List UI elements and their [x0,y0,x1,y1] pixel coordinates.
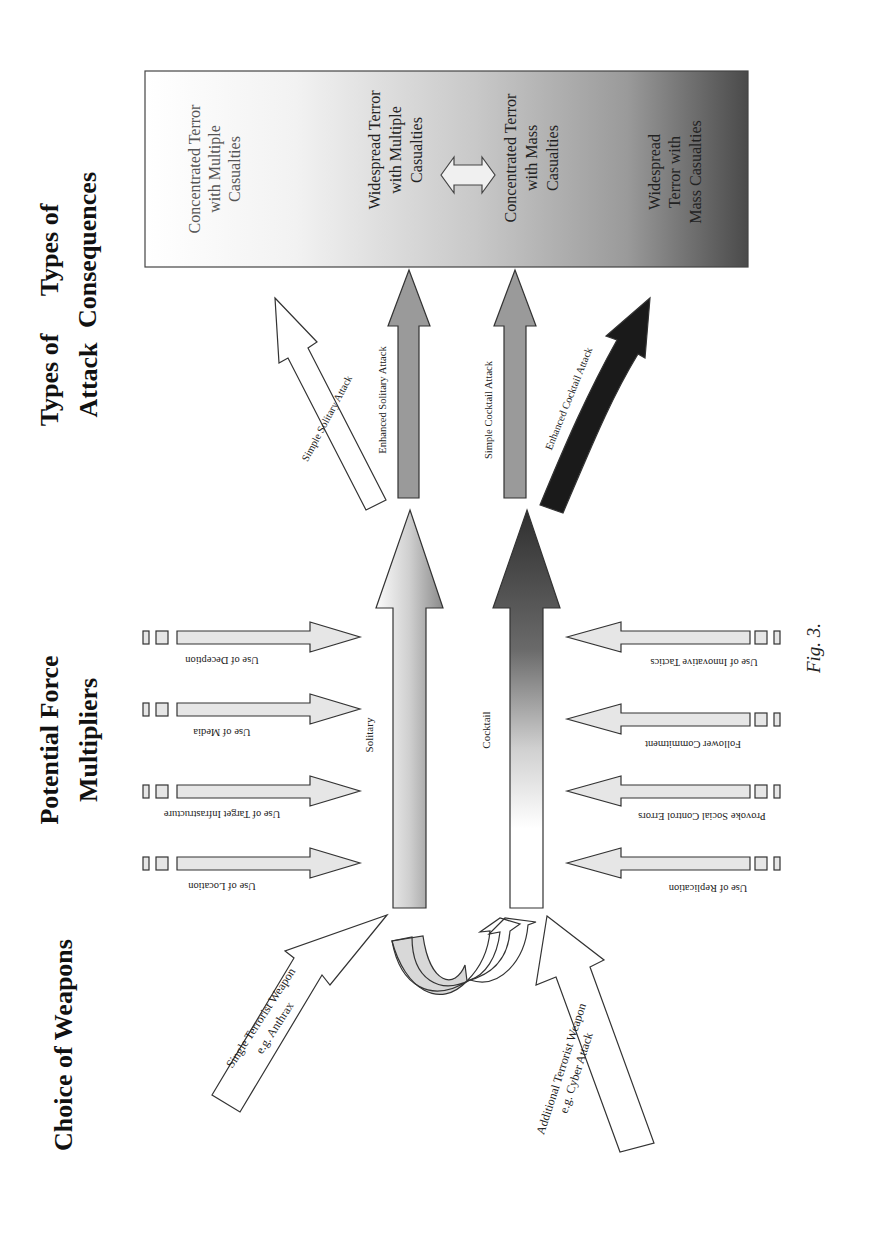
multiplier-provoke-social-control-errors: Provoke Social Control Errors [567,776,780,822]
svg-text:with Mass: with Mass [523,125,540,191]
svg-text:Widespread: Widespread [646,134,664,210]
svg-text:Terror with: Terror with [666,136,683,208]
svg-text:Concentrated Terror: Concentrated Terror [186,104,203,233]
svg-text:Simple Cocktail Attack: Simple Cocktail Attack [483,360,494,459]
svg-text:Casualties: Casualties [544,125,561,191]
arrow-cocktail-path: Cocktail [480,510,560,908]
svg-text:Use of Location: Use of Location [187,881,255,892]
arrow-enhanced-cocktail-attack: Enhanced Cocktail Attack [540,298,650,513]
arrow-additional-terrorist-weapon: Additional Terrorist Weapon e.g. Cyber A… [533,916,654,1152]
figure-caption: Fig. 3. [803,623,824,674]
multiplier-use-of-target-infrastructure: Use of Target Infrastructure [143,776,360,820]
arrow-simple-solitary-attack: Simple Solitary Attack [275,298,386,510]
multiplier-use-of-deception: Use of Deception [143,622,360,666]
svg-text:Multipliers: Multipliers [74,678,103,802]
svg-text:Solitary: Solitary [363,717,375,752]
svg-text:Provoke Social Control Errors: Provoke Social Control Errors [638,811,765,822]
svg-text:Potential Force: Potential Force [35,655,64,824]
svg-text:with Multiple: with Multiple [387,106,405,194]
terrorism-escalation-diagram: Types of Consequences Types of Attack Po… [0,0,874,1243]
svg-text:Casualties: Casualties [408,117,425,183]
svg-text:Mass Casualties: Mass Casualties [687,120,704,224]
svg-text:Use of Replication: Use of Replication [668,883,747,894]
svg-text:Choice of Weapons: Choice of Weapons [49,939,78,1151]
multiplier-use-of-media: Use of Media [143,694,360,738]
header-force-multipliers: Potential Force Multipliers [35,655,103,824]
svg-text:Use of Media: Use of Media [193,727,250,738]
arrow-simple-cocktail-attack: Simple Cocktail Attack [483,270,536,498]
header-choice-of-weapons: Choice of Weapons [49,939,78,1151]
arrow-enhanced-solitary-attack: Enhanced Solitary Attack [377,270,430,498]
multiplier-use-of-location: Use of Location [143,848,360,892]
svg-text:Follower Commitment: Follower Commitment [645,739,741,750]
svg-text:Use of Innovative Tactics: Use of Innovative Tactics [650,657,757,668]
svg-text:Types of: Types of [35,333,64,426]
svg-text:Use of Target Infrastructure: Use of Target Infrastructure [163,809,280,820]
header-consequences: Types of Consequences [35,172,102,328]
svg-text:with Multiple: with Multiple [206,125,224,213]
multiplier-use-of-innovative-tactics: Use of Innovative Tactics [567,622,780,668]
arrow-single-terrorist-weapon: Single Terrorist Weapon e.g. Anthrax [212,915,387,1112]
header-attack: Types of Attack [35,333,103,426]
svg-text:Types of: Types of [35,203,64,296]
svg-text:Casualties: Casualties [226,136,243,202]
svg-text:Enhanced Solitary Attack: Enhanced Solitary Attack [377,346,388,454]
multiplier-use-of-replication: Use of Replication [567,848,780,894]
svg-text:Consequences: Consequences [73,172,102,328]
svg-text:Use of Deception: Use of Deception [185,655,259,666]
svg-text:Cocktail: Cocktail [480,711,492,748]
curved-combine-arrow [392,918,536,994]
multiplier-follower-commitment: Follower Commitment [567,704,780,750]
consequences-box: Concentrated Terror with Multiple Casual… [145,71,748,267]
svg-text:Attack: Attack [74,342,103,418]
svg-text:Concentrated Terror: Concentrated Terror [502,93,519,222]
svg-text:Widespread Terror: Widespread Terror [366,90,384,210]
arrow-solitary-path: Solitary [363,510,443,908]
